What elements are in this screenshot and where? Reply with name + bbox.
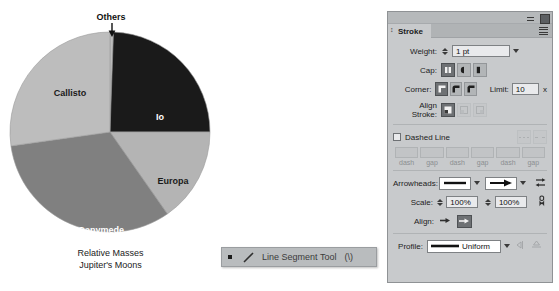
pie-caption-line2: Jupiter's Moons <box>18 259 203 271</box>
pie-label-europa: Europa <box>157 176 189 186</box>
align-clip-button[interactable] <box>457 215 472 228</box>
dash-gap-fields: dash gap dash gap dash gap <box>393 147 547 166</box>
link-scales-icon[interactable] <box>536 195 547 209</box>
dash-preserve-exact-button[interactable] <box>517 130 531 144</box>
gap-input-3[interactable] <box>522 147 545 158</box>
dash-adjust-corners-button[interactable] <box>533 130 547 144</box>
arrowhead-end-preview[interactable] <box>485 177 517 190</box>
pie-chart-figure: Io Europa Ganymede Callisto Others Relat… <box>0 0 240 291</box>
tab-stroke[interactable]: Stroke <box>388 24 431 38</box>
projecting-cap-button[interactable] <box>473 63 487 77</box>
weight-stepper[interactable] <box>441 45 449 57</box>
profile-preview[interactable]: Uniform <box>427 240 501 253</box>
dash-input-3[interactable] <box>496 147 519 158</box>
arrowheads-label: Arrowheads: <box>393 179 439 188</box>
swap-arrowheads-icon[interactable] <box>535 177 546 190</box>
panel-tabbar: Stroke <box>388 24 552 38</box>
others-callout-label: Others <box>69 12 153 22</box>
dash-field-2: dash <box>446 147 469 166</box>
arrowhead-end-chevron-down-icon[interactable] <box>520 181 526 185</box>
align-stroke-inside-button[interactable] <box>457 103 471 117</box>
dash-input-1[interactable] <box>395 147 418 158</box>
profile-label: Profile: <box>393 242 427 251</box>
scale-start-input[interactable]: 100% <box>446 196 478 208</box>
align-row: Align: <box>393 214 547 228</box>
weight-label: Weight: <box>393 47 441 56</box>
pie-label-callisto: Callisto <box>54 88 87 98</box>
limit-unit-label: x <box>543 85 547 94</box>
dash-input-2[interactable] <box>446 147 469 158</box>
scale-start-stepper[interactable] <box>436 196 443 208</box>
miter-join-button[interactable] <box>435 82 447 96</box>
bevel-join-button[interactable] <box>464 82 476 96</box>
scale-end-stepper[interactable] <box>484 196 491 208</box>
pie-caption-line1: Relative Masses <box>18 247 203 259</box>
pie-label-io: Io <box>156 112 165 122</box>
weight-chevron-down-icon[interactable] <box>513 49 519 53</box>
divider-2 <box>393 170 547 171</box>
divider-3 <box>393 233 547 234</box>
gap-caption-3: gap <box>522 159 545 166</box>
tool-name-label: Line Segment Tool <box>262 252 336 262</box>
gap-input-1[interactable] <box>420 147 443 158</box>
tool-selected-marker <box>222 248 238 266</box>
corner-label: Corner: <box>393 85 435 94</box>
flip-along-icon[interactable] <box>516 240 527 252</box>
corner-row: Corner: Limit: 10 x <box>393 82 547 96</box>
dashed-line-row: Dashed Line <box>393 130 547 144</box>
tab-stroke-label: Stroke <box>398 27 423 36</box>
dash-field-3: dash <box>496 147 519 166</box>
stroke-panel[interactable]: Stroke Weight: 1 pt Cap: <box>387 11 553 283</box>
align-stroke-outside-button[interactable] <box>473 103 487 117</box>
others-arrow-icon <box>107 23 117 37</box>
scale-end-input[interactable]: 100% <box>495 196 527 208</box>
round-join-button[interactable] <box>450 82 462 96</box>
gap-field-1: gap <box>420 147 443 166</box>
gap-input-2[interactable] <box>471 147 494 158</box>
dash-caption-2: dash <box>446 159 469 166</box>
align-extend-button[interactable] <box>439 215 452 228</box>
tool-shortcut-label: (\) <box>344 252 353 262</box>
gap-caption-2: gap <box>471 159 494 166</box>
arrowhead-start-chevron-down-icon[interactable] <box>474 181 480 185</box>
align-stroke-row: Align Stroke: <box>393 101 547 119</box>
panel-titlebar <box>388 12 552 24</box>
pie-label-ganymede: Ganymede <box>78 225 124 234</box>
collapse-icon[interactable] <box>527 14 535 22</box>
cap-row: Cap: <box>393 63 547 77</box>
dashed-line-checkbox[interactable] <box>393 133 401 141</box>
round-cap-button[interactable] <box>457 63 471 77</box>
limit-input[interactable]: 10 <box>512 83 539 95</box>
profile-value: Uniform <box>462 242 490 251</box>
profile-chevron-down-icon[interactable] <box>504 244 510 248</box>
butt-cap-button[interactable] <box>441 63 455 77</box>
line-segment-tool-icon <box>238 248 258 266</box>
close-icon[interactable] <box>540 14 548 22</box>
arrowheads-row: Arrowheads: <box>393 176 547 190</box>
gap-caption-1: gap <box>420 159 443 166</box>
scale-row: Scale: 100% 100% <box>393 195 547 209</box>
flip-across-icon[interactable] <box>531 240 542 252</box>
dash-caption-3: dash <box>496 159 519 166</box>
panel-menu-icon[interactable] <box>539 27 548 35</box>
align-stroke-center-button[interactable] <box>441 103 455 117</box>
weight-row: Weight: 1 pt <box>393 44 547 58</box>
dash-field-1: dash <box>395 147 418 166</box>
weight-input[interactable]: 1 pt <box>452 45 510 57</box>
cap-label: Cap: <box>393 66 441 75</box>
arrowhead-start-preview[interactable] <box>439 177 471 190</box>
dashed-line-label: Dashed Line <box>405 133 450 142</box>
gap-field-2: gap <box>471 147 494 166</box>
pie-caption: Relative Masses Jupiter's Moons <box>18 247 203 271</box>
pie-chart: Io Europa Ganymede Callisto <box>8 30 212 234</box>
divider <box>393 124 547 125</box>
limit-label: Limit: <box>489 85 512 94</box>
align-label: Align: <box>393 217 439 226</box>
scale-label: Scale: <box>393 198 436 207</box>
align-stroke-label: Align Stroke: <box>393 101 441 119</box>
dash-caption-1: dash <box>395 159 418 166</box>
gap-field-3: gap <box>522 147 545 166</box>
line-segment-tool-tooltip[interactable]: Line Segment Tool (\) <box>221 247 377 267</box>
profile-row: Profile: Uniform <box>393 239 547 253</box>
